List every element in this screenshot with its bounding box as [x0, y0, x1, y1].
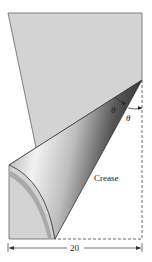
dimension-arrow-left	[9, 246, 14, 250]
angle-label-upper: θ	[111, 105, 116, 115]
angle-label-lower: θ	[126, 113, 131, 123]
arrow-head-lower	[138, 106, 142, 110]
folded-paper-diagram: θ θ Crease 20	[0, 0, 152, 262]
dimension-arrow-right	[136, 246, 141, 250]
crease-label: Crease	[94, 173, 119, 183]
width-label: 20	[70, 243, 80, 253]
